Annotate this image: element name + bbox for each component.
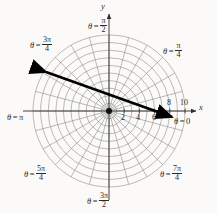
y-axis-label: y xyxy=(101,2,105,11)
equals-sign: = xyxy=(180,117,185,126)
fraction-numerator: 5π xyxy=(36,165,46,173)
fraction-denominator: 2 xyxy=(101,201,107,209)
theta-label-3pi-2: θ = 3π 2 xyxy=(87,192,109,210)
spoke-165 xyxy=(36,91,109,111)
theta-symbol: θ xyxy=(7,113,11,122)
theta-symbol: θ xyxy=(160,170,164,179)
theta-label-pi-4: θ = π 4 xyxy=(163,42,182,60)
spoke-105 xyxy=(89,38,109,111)
theta-label-7pi-4: θ = 7π 4 xyxy=(160,165,182,183)
theta-symbol: θ xyxy=(88,22,92,31)
theta-symbol: θ xyxy=(174,117,178,126)
fraction-numerator: 7π xyxy=(172,165,182,173)
spoke-330 xyxy=(109,111,175,149)
fraction-denominator: 2 xyxy=(100,26,106,34)
fraction: 5π 4 xyxy=(36,165,46,183)
spoke-345 xyxy=(109,111,182,131)
radial-tick-label-2: 2 xyxy=(121,114,125,122)
fraction: 7π 4 xyxy=(172,165,182,183)
fraction: π 2 xyxy=(100,17,107,35)
equals-sign: = xyxy=(166,170,171,179)
theta-symbol: θ xyxy=(87,197,91,206)
radial-tick-label-4: 4 xyxy=(136,114,140,122)
equals-sign: = xyxy=(93,197,98,206)
fraction-numerator: 3π xyxy=(42,36,52,44)
radial-tick-label-10: 10 xyxy=(180,99,188,107)
polar-grid-figure: x y 2 4 6 8 10 θ = 0 θ = π 4 θ = π 2 θ =… xyxy=(0,0,217,214)
spoke-255 xyxy=(89,111,109,184)
theta-value: 0 xyxy=(186,117,190,126)
fraction-numerator: 3π xyxy=(99,192,109,200)
equals-sign: = xyxy=(169,47,174,56)
equals-sign: = xyxy=(13,113,18,122)
equals-sign: = xyxy=(94,22,99,31)
fraction-denominator: 4 xyxy=(44,45,50,53)
spoke-195 xyxy=(36,111,109,131)
fraction: π 4 xyxy=(175,42,182,60)
fraction: 3π 2 xyxy=(99,192,109,210)
equals-sign: = xyxy=(36,41,41,50)
theta-label-pi: θ = π xyxy=(7,113,23,122)
spoke-240 xyxy=(71,111,109,177)
theta-label-5pi-4: θ = 5π 4 xyxy=(24,165,46,183)
fraction-numerator: π xyxy=(175,42,181,50)
origin-point xyxy=(106,108,112,114)
spoke-120 xyxy=(71,45,109,111)
fraction: 3π 4 xyxy=(42,36,52,54)
radial-tick-label-8: 8 xyxy=(167,99,171,107)
theta-symbol: θ xyxy=(24,170,28,179)
fraction-denominator: 4 xyxy=(174,174,180,182)
spoke-300 xyxy=(109,111,147,177)
fraction-denominator: 4 xyxy=(38,174,44,182)
radial-tick-label-6: 6 xyxy=(152,114,156,122)
equals-sign: = xyxy=(30,170,35,179)
fraction-numerator: π xyxy=(100,17,106,25)
theta-label-3pi-4: θ = 3π 4 xyxy=(30,36,52,54)
theta-symbol: θ xyxy=(30,41,34,50)
theta-label-pi-2: θ = π 2 xyxy=(88,17,107,35)
theta-label-0: θ = 0 xyxy=(174,117,190,126)
spoke-285 xyxy=(109,111,129,184)
x-axis-label: x xyxy=(199,103,203,112)
theta-value: π xyxy=(19,113,23,122)
theta-symbol: θ xyxy=(163,47,167,56)
spoke-210 xyxy=(43,111,109,149)
fraction-denominator: 4 xyxy=(175,51,181,59)
